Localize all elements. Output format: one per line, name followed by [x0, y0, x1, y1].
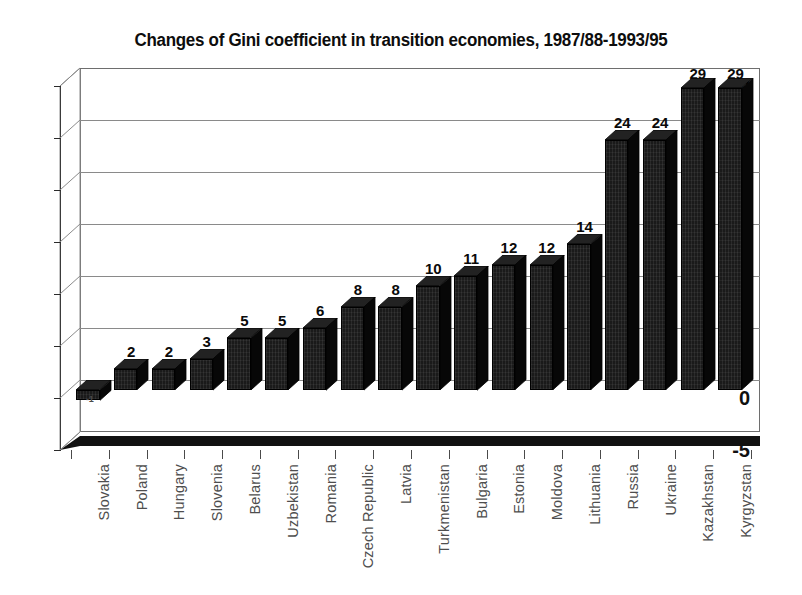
- x-tick-mark: [222, 450, 223, 459]
- x-tick-mark: [260, 450, 261, 459]
- bar-front-face: [718, 88, 741, 390]
- x-tick-mark: [600, 450, 601, 459]
- bars-layer: -122355688101112121424242929: [60, 68, 760, 450]
- plot-area: 302520151050-5 -122355688101112121424242…: [60, 68, 760, 450]
- x-tick-mark: [411, 450, 412, 459]
- x-tick-label-lithuania: Lithuania: [587, 464, 603, 525]
- x-tick-label-czech-republic: Czech Republic: [360, 464, 376, 568]
- bar-kyrgyzstan[interactable]: 29: [60, 68, 760, 450]
- x-tick-label-russia: Russia: [625, 464, 641, 510]
- x-tick-label-moldova: Moldova: [549, 464, 565, 520]
- x-tick-label-slovakia: Slovakia: [96, 464, 112, 520]
- bar-value-label: 29: [716, 66, 754, 81]
- x-tick-mark: [71, 450, 72, 459]
- x-tick-mark: [638, 450, 639, 459]
- x-tick-mark: [449, 450, 450, 459]
- x-tick-label-romania: Romania: [323, 464, 339, 523]
- x-tick-label-latvia: Latvia: [398, 464, 414, 504]
- x-tick-mark: [335, 450, 336, 459]
- x-tick-mark: [675, 450, 676, 459]
- x-tick-label-uzbekistan: Uzbekistan: [285, 464, 301, 538]
- x-tick-label-poland: Poland: [134, 464, 150, 510]
- x-tick-mark: [751, 450, 752, 459]
- chart-figure: Changes of Gini coefficient in transitio…: [0, 0, 802, 595]
- x-tick-label-kyrgyzstan: Kyrgyzstan: [738, 464, 754, 538]
- x-tick-mark: [524, 450, 525, 459]
- x-tick-label-slovenia: Slovenia: [209, 464, 225, 521]
- chart-title: Changes of Gini coefficient in transitio…: [12, 30, 790, 51]
- x-tick-mark: [184, 450, 185, 459]
- x-tick-label-belarus: Belarus: [247, 464, 263, 515]
- x-tick-label-ukraine: Ukraine: [663, 464, 679, 515]
- x-tick-mark: [373, 450, 374, 459]
- x-tick-mark: [562, 450, 563, 459]
- x-tick-mark: [487, 450, 488, 459]
- x-axis: SlovakiaPolandHungarySloveniaBelarusUzbe…: [60, 450, 760, 595]
- x-tick-label-bulgaria: Bulgaria: [474, 464, 490, 519]
- x-tick-mark: [298, 450, 299, 459]
- x-tick-mark: [147, 450, 148, 459]
- x-tick-mark: [713, 450, 714, 459]
- x-tick-label-hungary: Hungary: [171, 464, 187, 520]
- x-tick-label-turkmenistan: Turkmenistan: [436, 464, 452, 554]
- x-tick-mark: [109, 450, 110, 459]
- x-tick-label-kazakhstan: Kazakhstan: [700, 464, 716, 542]
- bar-side-face: [742, 78, 755, 392]
- x-tick-label-estonia: Estonia: [511, 464, 527, 514]
